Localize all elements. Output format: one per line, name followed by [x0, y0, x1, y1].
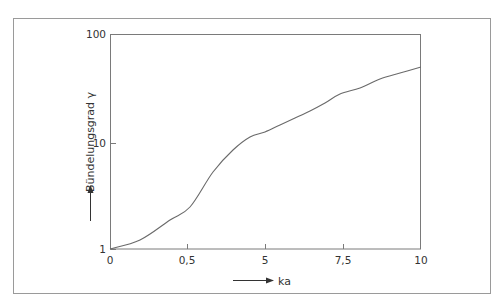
data-series-line [110, 67, 421, 249]
x-tick-label: 7,5 [335, 254, 352, 266]
y-axis-label-group: Bündelungsgrad γ [84, 91, 97, 192]
x-tick-label: 5 [262, 254, 269, 266]
x-axis-label: ka [278, 275, 291, 288]
y-tick-label: 100 [86, 28, 106, 40]
x-tick-label: 0,5 [179, 254, 196, 266]
y-tick-label: 1 [99, 243, 106, 255]
y-axis-label: Bündelungsgrad γ [84, 91, 97, 192]
plot-area [111, 35, 421, 250]
arrow-right-icon [266, 278, 274, 284]
x-tick-label: 10 [414, 254, 427, 266]
chart-canvas: 110100 00,557,510 Bündelungsgrad γ ka [0, 0, 503, 304]
x-axis-ticks: 00,557,510 [107, 244, 428, 266]
x-tick-label: 0 [107, 254, 114, 266]
